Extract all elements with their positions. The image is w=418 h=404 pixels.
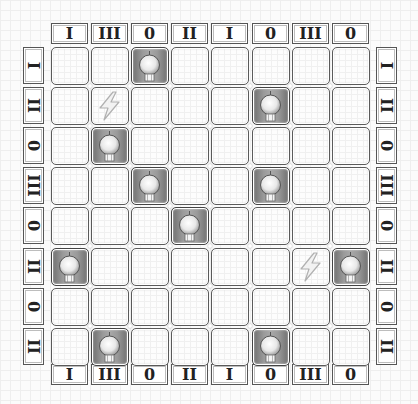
- column-clue-top: III: [292, 23, 329, 44]
- empty-cell[interactable]: [292, 167, 330, 205]
- column-clue-top: 0: [252, 23, 289, 44]
- row-clue-right: I: [376, 47, 397, 84]
- grid-intersection: [288, 244, 292, 248]
- bulb-cell[interactable]: [91, 328, 129, 366]
- lightbulb-icon: [132, 48, 167, 83]
- empty-cell[interactable]: [171, 87, 209, 125]
- grid-intersection: [88, 164, 92, 168]
- empty-cell[interactable]: [171, 127, 209, 165]
- empty-cell[interactable]: [211, 87, 249, 125]
- empty-cell[interactable]: [211, 207, 249, 245]
- empty-cell[interactable]: [51, 47, 89, 85]
- clue-label: II: [24, 339, 43, 354]
- lightbulb-icon: [172, 208, 207, 243]
- empty-cell[interactable]: [171, 328, 209, 366]
- empty-cell[interactable]: [51, 207, 89, 245]
- clue-label: 0: [144, 365, 155, 384]
- empty-cell[interactable]: [252, 207, 290, 245]
- empty-cell[interactable]: [131, 288, 169, 326]
- lightning-cell[interactable]: [292, 248, 330, 286]
- grid-intersection: [328, 84, 332, 88]
- empty-cell[interactable]: [211, 288, 249, 326]
- empty-cell[interactable]: [292, 207, 330, 245]
- bulb-cell[interactable]: [252, 167, 290, 205]
- empty-cell[interactable]: [211, 167, 249, 205]
- empty-cell[interactable]: [211, 127, 249, 165]
- empty-cell[interactable]: [131, 248, 169, 286]
- empty-cell[interactable]: [292, 288, 330, 326]
- column-clue-top: 0: [131, 23, 168, 44]
- bulb-cell[interactable]: [252, 328, 290, 366]
- empty-cell[interactable]: [91, 207, 129, 245]
- row-clue-right: II: [376, 328, 397, 365]
- empty-cell[interactable]: [171, 167, 209, 205]
- bulb-cell[interactable]: [51, 248, 89, 286]
- empty-cell[interactable]: [131, 328, 169, 366]
- empty-cell[interactable]: [332, 288, 370, 326]
- empty-cell[interactable]: [252, 47, 290, 85]
- empty-cell[interactable]: [51, 288, 89, 326]
- empty-cell[interactable]: [91, 248, 129, 286]
- empty-cell[interactable]: [332, 127, 370, 165]
- empty-cell[interactable]: [292, 87, 330, 125]
- bulb-cell[interactable]: [171, 207, 209, 245]
- empty-cell[interactable]: [51, 127, 89, 165]
- empty-cell[interactable]: [332, 87, 370, 125]
- empty-cell[interactable]: [91, 288, 129, 326]
- empty-cell[interactable]: [51, 167, 89, 205]
- lightbulb-icon: [253, 329, 288, 364]
- empty-cell[interactable]: [131, 127, 169, 165]
- empty-cell[interactable]: [332, 328, 370, 366]
- empty-cell[interactable]: [131, 207, 169, 245]
- empty-cell[interactable]: [131, 87, 169, 125]
- lightning-cell[interactable]: [91, 87, 129, 125]
- grid-intersection: [168, 324, 172, 328]
- row-clue-left: II: [23, 248, 44, 285]
- empty-cell[interactable]: [252, 288, 290, 326]
- empty-cell[interactable]: [332, 167, 370, 205]
- row-clue-left: 0: [23, 207, 44, 244]
- grid-intersection: [88, 204, 92, 208]
- empty-cell[interactable]: [292, 127, 330, 165]
- bulb-cell[interactable]: [252, 87, 290, 125]
- bulb-cell[interactable]: [131, 47, 169, 85]
- empty-cell[interactable]: [51, 87, 89, 125]
- empty-cell[interactable]: [211, 248, 249, 286]
- bulb-cell[interactable]: [131, 167, 169, 205]
- empty-cell[interactable]: [51, 328, 89, 366]
- empty-cell[interactable]: [332, 47, 370, 85]
- grid-intersection: [288, 324, 292, 328]
- grid-intersection: [168, 244, 172, 248]
- grid-intersection: [208, 244, 212, 248]
- grid-intersection: [88, 284, 92, 288]
- grid-intersection: [128, 324, 132, 328]
- clue-label: III: [299, 365, 321, 384]
- bulb-cell[interactable]: [332, 248, 370, 286]
- bulb-cell[interactable]: [91, 127, 129, 165]
- empty-cell[interactable]: [91, 167, 129, 205]
- row-clue-left: III: [23, 167, 44, 204]
- empty-cell[interactable]: [171, 288, 209, 326]
- empty-cell[interactable]: [292, 328, 330, 366]
- column-clue-top: II: [171, 23, 208, 44]
- column-clue-top: I: [51, 23, 88, 44]
- clue-label: I: [377, 62, 396, 69]
- clue-label: II: [377, 259, 396, 274]
- empty-cell[interactable]: [252, 248, 290, 286]
- empty-cell[interactable]: [211, 47, 249, 85]
- empty-cell[interactable]: [292, 47, 330, 85]
- empty-cell[interactable]: [171, 47, 209, 85]
- grid-intersection: [288, 124, 292, 128]
- grid-intersection: [248, 124, 252, 128]
- empty-cell[interactable]: [171, 248, 209, 286]
- empty-cell[interactable]: [211, 328, 249, 366]
- clue-label: III: [377, 174, 396, 196]
- empty-cell[interactable]: [252, 127, 290, 165]
- row-clue-right: II: [376, 248, 397, 285]
- grid-intersection: [328, 124, 332, 128]
- grid-intersection: [128, 244, 132, 248]
- empty-cell[interactable]: [91, 47, 129, 85]
- clue-label: II: [377, 339, 396, 354]
- empty-cell[interactable]: [332, 207, 370, 245]
- grid-intersection: [128, 164, 132, 168]
